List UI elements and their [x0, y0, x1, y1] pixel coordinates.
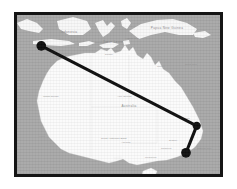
- place-label-sydney: Sydney: [169, 139, 178, 142]
- map-figure: AustraliaIndonesiaPapua New GuineaTimor-…: [14, 12, 223, 177]
- place-label-perth: Perth: [39, 135, 46, 138]
- country-label-papua-new-guinea: Papua New Guinea: [151, 26, 183, 30]
- water-label-indian-ocean: Indian Ocean: [43, 95, 59, 98]
- water-label-tasman-sea: Tasman Sea: [197, 147, 212, 150]
- destination-marker[interactable]: [181, 148, 191, 158]
- waypoint-marker[interactable]: [193, 122, 201, 130]
- country-label-indonesia: Indonesia: [61, 30, 78, 34]
- water-label-arafura-sea: Arafura Sea: [125, 37, 139, 40]
- place-label-alice-springs: Alice Springs: [117, 95, 132, 98]
- place-label-darwin: Darwin: [105, 53, 113, 56]
- place-label-hobart: Hobart: [151, 173, 159, 174]
- water-label-great-australian-bight: Great Australian Bight: [101, 137, 127, 140]
- origin-marker[interactable]: [36, 41, 46, 51]
- water-label-timor-sea: Timor Sea: [95, 41, 107, 44]
- country-label-australia: Australia: [121, 104, 136, 108]
- place-label-adelaide: Adelaide: [121, 141, 131, 144]
- place-label-cairns: Cairns: [157, 65, 165, 68]
- map-canvas: AustraliaIndonesiaPapua New GuineaTimor-…: [17, 15, 220, 174]
- water-label-coral-sea: Coral Sea: [185, 63, 197, 66]
- place-label-melbourne: Melbourne: [145, 156, 157, 159]
- place-label-canberra: Canberra: [161, 147, 172, 150]
